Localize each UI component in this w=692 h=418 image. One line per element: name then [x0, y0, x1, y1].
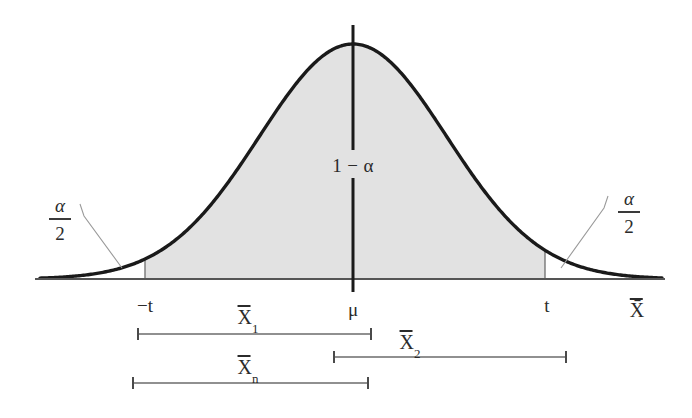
figure-canvas: 1 − α α 2 α 2 −t μ t X̄ X1 X2 Xn	[0, 0, 692, 418]
axis-label-xbar: X̄	[630, 298, 644, 320]
confidence-level-label: 1 − α	[332, 156, 374, 175]
distribution-figure	[0, 0, 692, 418]
interval-label-xbar-2: X2	[400, 330, 421, 356]
interval-brackets	[133, 328, 566, 389]
interval-label-xbar-1-sub: 1	[252, 321, 259, 336]
interval-label-xbar-n: Xn	[238, 355, 259, 381]
tick-label-neg-t: −t	[137, 296, 153, 315]
interval-label-xbar-n-sub: n	[252, 371, 259, 386]
alpha-symbol-left: α	[55, 196, 65, 218]
interval-label-xbar-2-char: X	[400, 331, 414, 353]
leader-line-left-tail	[80, 204, 122, 268]
leader-line-right-tail	[561, 196, 608, 268]
denominator-right: 2	[624, 213, 634, 236]
interval-label-xbar-1-char: X	[238, 306, 252, 328]
alpha-symbol-right: α	[624, 189, 634, 211]
interval-label-xbar-n-char: X	[238, 356, 252, 378]
interval-label-xbar-1: X1	[238, 305, 259, 331]
tick-label-mu: μ	[348, 300, 358, 319]
interval-label-xbar-2-sub: 2	[414, 346, 421, 361]
bracket-xbar-2	[334, 351, 566, 363]
alpha-over-2-left: α 2	[49, 196, 71, 243]
tick-label-pos-t: t	[544, 296, 549, 315]
denominator-left: 2	[55, 220, 65, 243]
axis-label-xbar-char: X̄	[630, 299, 644, 321]
alpha-over-2-right: α 2	[618, 189, 640, 236]
